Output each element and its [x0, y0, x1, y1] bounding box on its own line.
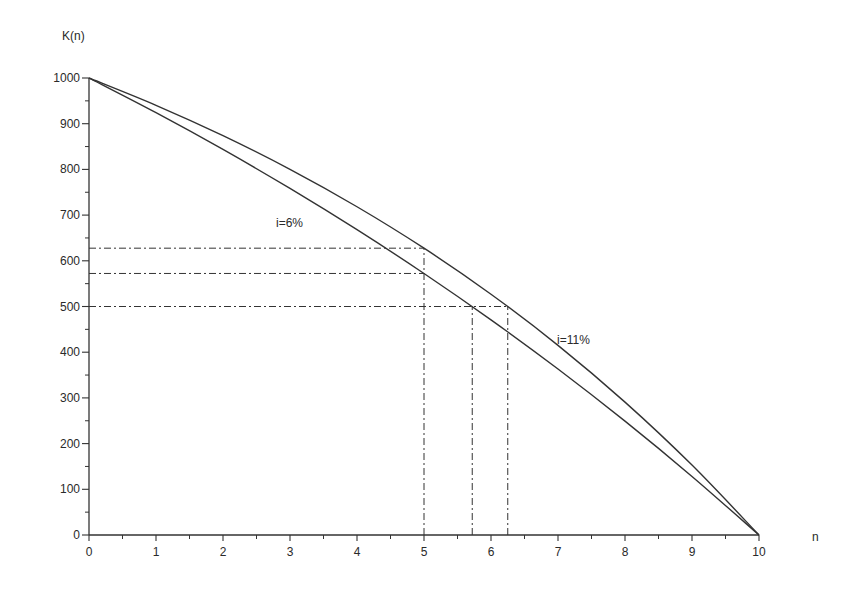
x-tick-label: 9 [689, 545, 696, 559]
x-tick-label: 10 [752, 545, 766, 559]
x-tick-label: 8 [622, 545, 629, 559]
y-tick-label: 200 [60, 437, 80, 451]
x-tick-label: 0 [86, 545, 93, 559]
y-tick-label: 600 [60, 254, 80, 268]
y-tick-label: 400 [60, 345, 80, 359]
annotation-i-6: i=6% [276, 216, 303, 230]
x-tick-label: 3 [287, 545, 294, 559]
x-tick-label: 4 [354, 545, 361, 559]
reference-lines [89, 248, 508, 535]
y-tick-label: 700 [60, 208, 80, 222]
x-tick-label: 6 [488, 545, 495, 559]
y-tick-label: 800 [60, 162, 80, 176]
x-tick-label: 2 [220, 545, 227, 559]
x-tick-label: 5 [421, 545, 428, 559]
y-tick-label: 300 [60, 391, 80, 405]
x-tick-label: 1 [153, 545, 160, 559]
y-tick-label: 900 [60, 117, 80, 131]
x-axis-title: n [812, 530, 819, 544]
y-axis-title: K(n) [62, 29, 85, 43]
x-tick-label: 7 [555, 545, 562, 559]
y-tick-label: 500 [60, 300, 80, 314]
y-tick-label: 1000 [53, 71, 80, 85]
axes: 0123456789100100200300400500600700800900… [53, 71, 766, 559]
y-tick-label: 0 [73, 528, 80, 542]
y-tick-label: 100 [60, 482, 80, 496]
annotation-i-11: i=11% [557, 333, 590, 347]
chart: 0123456789100100200300400500600700800900… [0, 0, 860, 591]
